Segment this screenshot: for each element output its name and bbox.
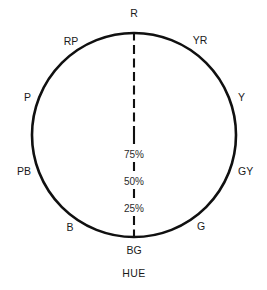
hue-label-p: P [24,91,31,103]
hue-label-y: Y [238,91,245,103]
hue-label-pb: PB [17,165,31,177]
percent-label-group: 75% 50% 25% [114,147,154,214]
hue-polar-chart: RYRYGYGBGBPBPRP 75% 50% 25% HUE [0,0,267,290]
pct-label-50: 50% [124,176,144,187]
pct-label-75: 75% [124,149,144,160]
hue-label-rp: RP [64,35,79,47]
hue-axis-caption: HUE [122,267,145,279]
hue-label-g: G [197,220,205,232]
pct-label-25: 25% [124,203,144,214]
hue-label-r: R [130,7,138,19]
hue-label-bg: BG [126,244,141,256]
hue-label-gy: GY [238,165,253,177]
hue-label-yr: YR [193,34,208,46]
hue-label-b: B [66,221,73,233]
hue-polar-chart-svg: RYRYGYGBGBPBPRP 75% 50% 25% HUE [0,0,267,290]
